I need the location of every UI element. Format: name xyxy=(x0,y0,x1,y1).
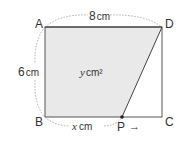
measure-left: 6cm xyxy=(18,65,39,79)
label-A: A xyxy=(35,17,43,31)
p-direction-arrow-icon: → xyxy=(129,120,140,132)
shaded-region-ABPD xyxy=(45,27,162,117)
measure-bottom: xcm xyxy=(71,120,92,132)
label-P: P xyxy=(117,120,125,134)
measure-top: 8cm xyxy=(89,9,110,23)
area-label: ycm² xyxy=(79,66,103,78)
geometry-figure: A D B C P → 8cm 6cm xcm ycm² xyxy=(0,0,182,143)
label-B: B xyxy=(35,115,43,129)
label-C: C xyxy=(165,115,174,129)
label-D: D xyxy=(165,17,174,31)
